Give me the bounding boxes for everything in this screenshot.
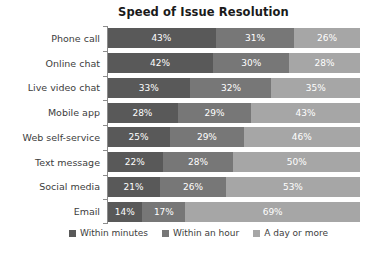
bar-row: Text message22%28%50% (0, 150, 379, 175)
chart-title: Speed of Issue Resolution (0, 5, 379, 19)
axis-tick (103, 150, 107, 151)
axis-tick (103, 199, 107, 200)
bar-value-label: 31% (245, 33, 265, 43)
bar-value-label: 35% (306, 83, 326, 93)
legend-item[interactable]: Within minutes (69, 228, 148, 238)
bar-segment: 28% (107, 103, 178, 123)
bar-segment: 26% (160, 177, 226, 197)
legend-label: A day or more (264, 228, 328, 238)
bar-value-label: 32% (221, 83, 241, 93)
bar-value-label: 29% (205, 108, 225, 118)
bar-segment: 22% (107, 152, 163, 172)
bar-segment: 69% (185, 202, 360, 222)
category-label: Email (0, 206, 107, 217)
bar-row: Web self-service25%29%46% (0, 125, 379, 150)
bar-row: Email14%17%69% (0, 199, 379, 224)
bar-value-label: 14% (115, 207, 135, 217)
bar-track: 33%32%35% (107, 78, 360, 98)
bar-segment: 42% (107, 53, 213, 73)
category-label: Online chat (0, 58, 107, 69)
bar-track: 42%30%28% (107, 53, 360, 73)
axis-tick (103, 100, 107, 101)
category-label: Social media (0, 181, 107, 192)
bar-value-label: 26% (183, 182, 203, 192)
bar-segment: 25% (107, 127, 170, 147)
bar-segment: 31% (216, 28, 294, 48)
bar-value-label: 33% (139, 83, 159, 93)
bar-segment: 28% (289, 53, 360, 73)
bar-segment: 30% (213, 53, 289, 73)
bar-track: 21%26%53% (107, 177, 360, 197)
bar-rows-container: Phone call43%31%26%Online chat42%30%28%L… (0, 26, 379, 224)
legend-label: Within minutes (80, 228, 148, 238)
bar-segment: 14% (107, 202, 142, 222)
axis-tick (103, 76, 107, 77)
bar-row: Mobile app28%29%43% (0, 100, 379, 125)
bar-value-label: 43% (151, 33, 171, 43)
bar-segment: 50% (233, 152, 360, 172)
bar-track: 25%29%46% (107, 127, 360, 147)
bar-segment: 33% (107, 78, 190, 98)
bar-value-label: 21% (124, 182, 144, 192)
bar-segment: 53% (226, 177, 360, 197)
stacked-bar-chart: Speed of Issue Resolution Phone call43%3… (0, 0, 379, 259)
bar-value-label: 26% (317, 33, 337, 43)
bar-segment: 46% (244, 127, 360, 147)
category-label: Live video chat (0, 82, 107, 93)
bar-row: Social media21%26%53% (0, 175, 379, 200)
legend-item[interactable]: Within an hour (162, 228, 239, 238)
bar-segment: 28% (163, 152, 234, 172)
bar-segment: 29% (178, 103, 251, 123)
bar-track: 43%31%26% (107, 28, 360, 48)
bar-row: Online chat42%30%28% (0, 51, 379, 76)
axis-tick (103, 125, 107, 126)
bar-value-label: 17% (154, 207, 174, 217)
chart-legend: Within minutesWithin an hourA day or mor… (0, 228, 379, 238)
bar-row: Phone call43%31%26% (0, 26, 379, 51)
bar-track: 14%17%69% (107, 202, 360, 222)
bar-value-label: 28% (315, 58, 335, 68)
category-label: Web self-service (0, 132, 107, 143)
category-label: Mobile app (0, 107, 107, 118)
bar-value-label: 29% (197, 132, 217, 142)
bar-value-label: 69% (263, 207, 283, 217)
legend-swatch-icon (253, 230, 260, 237)
category-axis-line (107, 26, 108, 224)
category-label: Text message (0, 157, 107, 168)
bar-row: Live video chat33%32%35% (0, 76, 379, 101)
bar-value-label: 28% (188, 157, 208, 167)
plot-area: Phone call43%31%26%Online chat42%30%28%L… (0, 26, 379, 224)
bar-track: 28%29%43% (107, 103, 360, 123)
bar-value-label: 53% (283, 182, 303, 192)
bar-segment: 43% (107, 28, 216, 48)
bar-value-label: 28% (132, 108, 152, 118)
category-label: Phone call (0, 33, 107, 44)
bar-value-label: 25% (129, 132, 149, 142)
bar-value-label: 42% (150, 58, 170, 68)
bar-segment: 35% (271, 78, 360, 98)
bar-segment: 43% (251, 103, 360, 123)
bar-value-label: 46% (292, 132, 312, 142)
legend-swatch-icon (69, 230, 76, 237)
axis-tick (103, 223, 107, 224)
bar-segment: 29% (170, 127, 243, 147)
axis-tick (103, 175, 107, 176)
bar-segment: 17% (142, 202, 185, 222)
axis-tick (103, 51, 107, 52)
bar-track: 22%28%50% (107, 152, 360, 172)
bar-value-label: 50% (287, 157, 307, 167)
bar-segment: 32% (190, 78, 271, 98)
bar-value-label: 30% (241, 58, 261, 68)
bar-segment: 26% (294, 28, 360, 48)
legend-label: Within an hour (173, 228, 239, 238)
bar-segment: 21% (107, 177, 160, 197)
bar-value-label: 22% (125, 157, 145, 167)
axis-tick (103, 26, 107, 27)
legend-item[interactable]: A day or more (253, 228, 328, 238)
bar-value-label: 43% (296, 108, 316, 118)
legend-swatch-icon (162, 230, 169, 237)
